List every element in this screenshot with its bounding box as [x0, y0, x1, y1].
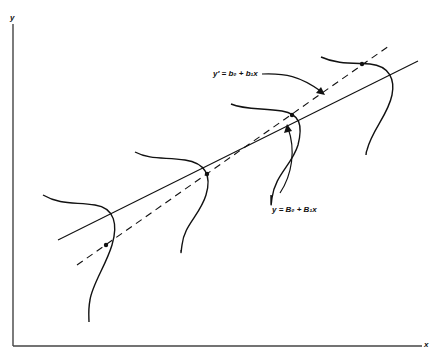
- fitted-regression-line: [77, 46, 389, 265]
- regression-diagram: [0, 0, 435, 363]
- fitted-line-arrow: [262, 74, 322, 92]
- x-axis-label: x: [424, 340, 428, 349]
- distribution-curve-1: [43, 195, 115, 322]
- distribution-curve-2: [135, 152, 208, 252]
- distribution-curve-3: [231, 104, 300, 205]
- distribution-curve-4: [321, 57, 393, 155]
- intersection-dots: [104, 62, 364, 247]
- true-equation-label: y = B₀ + B₁x: [272, 205, 317, 214]
- distribution-curves: [43, 57, 393, 322]
- y-axis-label: y: [10, 13, 14, 22]
- true-regression-line: [58, 61, 418, 240]
- annotation-arrows: [262, 74, 322, 193]
- fitted-equation-label: y′ = b₀ + b₁x: [213, 69, 258, 78]
